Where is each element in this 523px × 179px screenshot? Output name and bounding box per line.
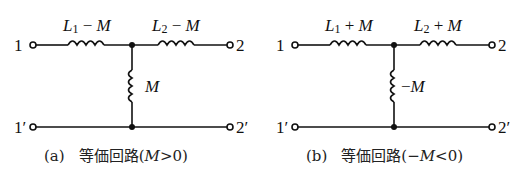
port-label-2: 2 [236, 36, 245, 55]
junction-top-icon [129, 42, 135, 48]
port-label-2: 2 [498, 36, 507, 55]
inductor-left-label: L1 − M [62, 16, 112, 36]
port-label-2prime: 2′ [236, 118, 248, 137]
terminal-1-icon [292, 42, 298, 48]
port-label-2prime: 2′ [498, 118, 510, 137]
port-label-1: 1 [276, 36, 285, 55]
terminal-2prime-icon [489, 124, 495, 130]
terminal-2prime-icon [227, 124, 233, 130]
inductor-shunt-label: M [144, 77, 160, 96]
inductor-left-coil-icon [68, 41, 104, 45]
port-label-1prime: 1′ [14, 118, 26, 137]
inductor-left-coil-icon [330, 41, 366, 45]
inductor-right-coil-icon [420, 41, 456, 45]
port-label-1prime: 1′ [276, 118, 288, 137]
inductor-shunt-label: −M [401, 77, 426, 96]
circuit-a [30, 41, 233, 130]
inductor-right-coil-icon [158, 41, 194, 45]
inductor-shunt-coil-icon [391, 70, 395, 102]
caption-b: (b)等価回路(−M<0) [306, 147, 463, 165]
circuit-b [292, 41, 495, 130]
terminal-1prime-icon [30, 124, 36, 130]
inductor-shunt-coil-icon [129, 70, 133, 102]
junction-bottom-icon [129, 124, 135, 130]
caption-a: (a)等価回路(M>0) [44, 147, 188, 165]
junction-bottom-icon [391, 124, 397, 130]
port-label-1: 1 [14, 36, 23, 55]
inductor-right-label: L2 + M [413, 16, 463, 36]
inductor-right-label: L2 − M [151, 16, 201, 36]
inductor-left-label: L1 + M [324, 16, 374, 36]
terminal-1-icon [30, 42, 36, 48]
junction-top-icon [391, 42, 397, 48]
terminal-2-icon [489, 42, 495, 48]
terminal-1prime-icon [292, 124, 298, 130]
terminal-2-icon [227, 42, 233, 48]
